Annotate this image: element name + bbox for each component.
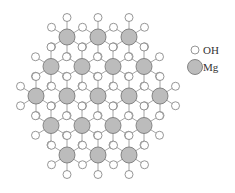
mg-atom — [105, 118, 121, 134]
oh-group — [47, 102, 55, 110]
oh-group — [110, 82, 118, 90]
oh-group — [125, 171, 133, 179]
mg-atom — [136, 118, 152, 134]
legend-mg-symbol-icon — [188, 60, 203, 75]
oh-group — [110, 23, 118, 31]
oh-group — [48, 141, 56, 149]
oh-group — [63, 14, 71, 22]
mg-atom — [121, 147, 137, 163]
mg-atom — [90, 88, 106, 104]
oh-group — [79, 161, 87, 169]
oh-group — [94, 73, 102, 81]
mg-atom — [43, 118, 59, 134]
mg-atom — [121, 88, 137, 104]
mg-atom — [152, 88, 168, 104]
oh-group — [63, 171, 71, 179]
oh-group — [156, 53, 164, 61]
oh-group — [125, 53, 133, 61]
oh-group — [172, 102, 180, 110]
oh-group — [125, 112, 133, 120]
oh-group — [140, 102, 148, 110]
oh-group — [79, 23, 87, 31]
oh-group — [109, 43, 117, 51]
oh-group — [63, 112, 71, 120]
oh-group — [63, 132, 71, 140]
oh-group — [47, 43, 55, 51]
oh-group — [141, 82, 149, 90]
mg-atom — [28, 88, 44, 104]
legend-mg-label: Mg — [203, 61, 219, 73]
mg-atom — [121, 29, 137, 45]
oh-group — [156, 131, 164, 139]
mg-atom — [90, 29, 106, 45]
oh-group — [125, 73, 133, 81]
oh-group — [78, 43, 86, 51]
oh-group — [32, 112, 40, 120]
oh-group — [172, 82, 180, 90]
oh-group — [48, 161, 56, 169]
oh-group — [141, 161, 149, 169]
oh-group — [109, 102, 117, 110]
oh-group — [48, 23, 56, 31]
oh-group — [94, 53, 102, 61]
oh-group — [63, 53, 71, 61]
mg-atom — [136, 59, 152, 75]
oh-group — [125, 14, 133, 22]
oh-group — [32, 53, 40, 61]
oh-group — [17, 82, 25, 90]
oh-group — [94, 132, 102, 140]
oh-group — [156, 112, 164, 120]
oh-group — [94, 171, 102, 179]
oh-group — [79, 82, 87, 90]
brucite-structure-diagram: OH Mg — [0, 0, 235, 193]
legend: OH Mg — [188, 44, 219, 75]
mg-atom — [59, 29, 75, 45]
oh-group — [32, 131, 40, 139]
oh-group — [110, 141, 118, 149]
oh-group — [141, 23, 149, 31]
oh-group — [17, 102, 25, 110]
mg-atom — [59, 88, 75, 104]
oh-group — [63, 73, 71, 81]
mg-atom — [90, 147, 106, 163]
oh-group — [140, 43, 148, 51]
mg-atom — [43, 59, 59, 75]
oh-group — [32, 73, 40, 81]
legend-oh-label: OH — [203, 44, 219, 56]
oh-group — [125, 132, 133, 140]
oh-group — [79, 141, 87, 149]
mg-atom — [59, 147, 75, 163]
oh-group — [78, 102, 86, 110]
oh-group — [94, 14, 102, 22]
oh-group — [94, 112, 102, 120]
oh-group — [48, 82, 56, 90]
legend-oh-symbol-icon — [191, 46, 199, 54]
oh-group — [141, 141, 149, 149]
mg-atom — [74, 59, 90, 75]
mg-atom — [74, 118, 90, 134]
oh-group — [110, 161, 118, 169]
oh-group — [156, 73, 164, 81]
mg-atom — [105, 59, 121, 75]
